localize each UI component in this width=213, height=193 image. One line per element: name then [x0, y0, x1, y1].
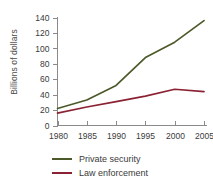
series-line-private-security — [58, 21, 205, 109]
y-tick-label: 0 — [45, 121, 50, 131]
x-tick-label: 1995 — [136, 131, 155, 141]
y-tick-label: 20 — [40, 105, 50, 115]
series-group — [58, 21, 205, 114]
legend: Private security Law enforcement — [52, 152, 148, 180]
plot-area: 020406080100120140 198019851990199520002… — [0, 0, 213, 145]
y-tick-label: 120 — [35, 28, 49, 38]
series-line-law-enforcement — [58, 89, 205, 113]
y-tick-label: 40 — [40, 90, 50, 100]
y-tick-label: 100 — [35, 44, 49, 54]
legend-item-private-security: Private security — [52, 152, 148, 166]
legend-swatch-law-enforcement — [52, 172, 72, 174]
legend-label-private-security: Private security — [79, 154, 141, 164]
y-tick-label: 140 — [35, 13, 49, 23]
x-tick-label: 1985 — [78, 131, 97, 141]
y-tick-label: 60 — [40, 74, 50, 84]
x-tick-label: 1980 — [49, 131, 68, 141]
legend-item-law-enforcement: Law enforcement — [52, 166, 148, 180]
x-tick-label: 1990 — [107, 131, 126, 141]
legend-label-law-enforcement: Law enforcement — [79, 168, 148, 178]
y-tick-label: 80 — [40, 59, 50, 69]
y-axis-ticks: 020406080100120140 — [35, 13, 57, 131]
line-chart: Billions of dollars 020406080100120140 1… — [0, 0, 213, 193]
x-tick-label: 2000 — [166, 131, 185, 141]
x-axis-ticks: 198019851990199520002005 — [49, 121, 213, 141]
x-tick-label: 2005 — [195, 131, 213, 141]
legend-swatch-private-security — [52, 158, 72, 160]
